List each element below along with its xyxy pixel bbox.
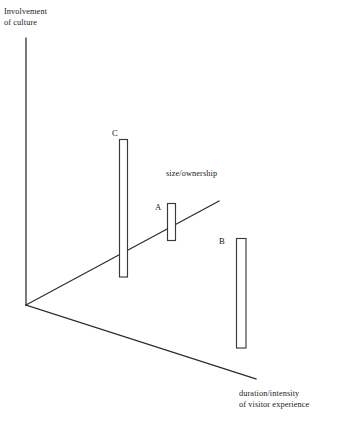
depth-axis-label: size/ownership	[166, 169, 217, 180]
bar-label-c: C	[112, 129, 118, 138]
vertical-axis-label-line2: of culture	[4, 18, 47, 29]
horizontal-axis-label-line1: duration/intensity	[239, 389, 299, 398]
bar-label-b: B	[219, 237, 225, 246]
bar-b	[237, 239, 247, 349]
axes-diagram-canvas	[0, 0, 344, 428]
horizontal-axis-line	[26, 305, 256, 379]
horizontal-axis-label: duration/intensity of visitor experience	[239, 389, 309, 410]
vertical-axis-label: Involvement of culture	[4, 7, 47, 28]
horizontal-axis-label-line2: of visitor experience	[239, 400, 309, 411]
vertical-axis-label-line1: Involvement	[4, 7, 47, 16]
bar-c	[120, 140, 128, 278]
bar-label-a: A	[155, 203, 161, 212]
bar-a	[168, 204, 176, 241]
